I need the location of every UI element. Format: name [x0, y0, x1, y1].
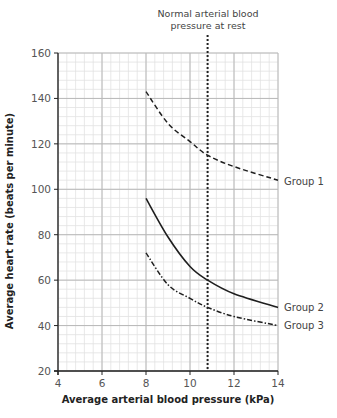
y-tick-label: 160 [31, 47, 51, 59]
y-tick-label: 100 [31, 183, 51, 195]
y-tick-label: 20 [38, 365, 51, 377]
data-series [146, 92, 278, 326]
y-axis-title: Average heart rate (beats per minute) [4, 113, 15, 329]
y-tick-label: 120 [31, 138, 51, 150]
series-label-group3: Group 3 [284, 320, 324, 331]
series-label-group2: Group 2 [284, 302, 324, 313]
y-tick-label: 60 [38, 274, 51, 286]
series-label-group1: Group 1 [284, 176, 324, 187]
annotation-line-1: Normal arterial blood [157, 8, 258, 19]
series-group-1 [146, 92, 278, 181]
x-tick-label: 12 [227, 377, 240, 389]
major-grid [58, 53, 278, 371]
y-tick-label: 40 [38, 320, 51, 332]
x-tick-label: 6 [99, 377, 106, 389]
heart-rate-chart: 46810121420406080100120140160 Normal art… [0, 0, 337, 418]
y-tick-label: 80 [38, 229, 51, 241]
x-tick-label: 4 [55, 377, 62, 389]
axes [54, 53, 278, 375]
minor-grid [58, 53, 278, 371]
x-tick-label: 8 [143, 377, 150, 389]
x-tick-label: 10 [183, 377, 196, 389]
y-tick-label: 140 [31, 92, 51, 104]
annotation-line-2: pressure at rest [171, 20, 246, 31]
x-tick-label: 14 [271, 377, 285, 389]
x-axis-title: Average arterial blood pressure (kPa) [62, 394, 275, 405]
